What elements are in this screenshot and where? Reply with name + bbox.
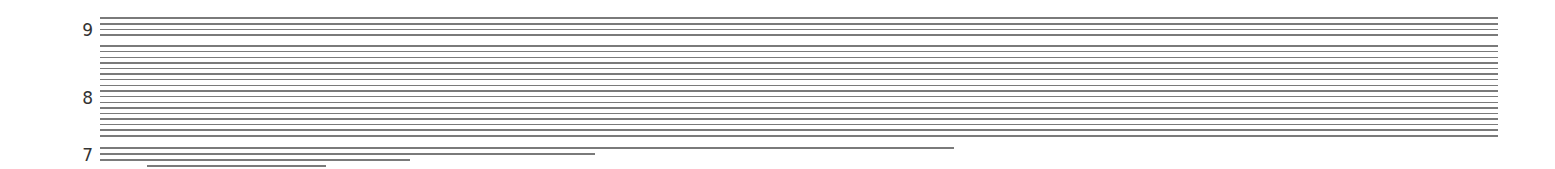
data-line-segment [100, 102, 1498, 103]
data-line-segment [100, 68, 1498, 69]
y-tick-label: 8 [73, 90, 93, 107]
data-line-segment [100, 17, 1498, 18]
data-line-segment [147, 165, 326, 166]
data-line-segment [100, 79, 1498, 80]
data-line-segment [100, 62, 1498, 63]
chart-area: 987 [0, 0, 1555, 169]
data-line-segment [100, 29, 1498, 30]
data-line-segment [100, 147, 954, 148]
data-line-segment [100, 159, 410, 160]
data-line-segment [100, 45, 1498, 46]
data-line-segment [100, 135, 1498, 136]
data-line-segment [100, 96, 1498, 97]
data-line-segment [100, 113, 1498, 114]
data-line-segment [100, 73, 1498, 74]
y-tick-label: 9 [73, 22, 93, 39]
data-line-segment [100, 107, 1498, 108]
data-line-segment [100, 90, 1498, 91]
data-line-segment [100, 153, 595, 154]
data-line-segment [100, 57, 1498, 58]
data-line-segment [100, 129, 1498, 130]
data-line-segment [100, 34, 1498, 35]
data-line-segment [100, 124, 1498, 125]
data-line-segment [100, 85, 1498, 86]
data-line-segment [100, 118, 1498, 119]
data-line-segment [100, 51, 1498, 52]
y-tick-label: 7 [73, 147, 93, 164]
data-line-segment [100, 23, 1498, 24]
